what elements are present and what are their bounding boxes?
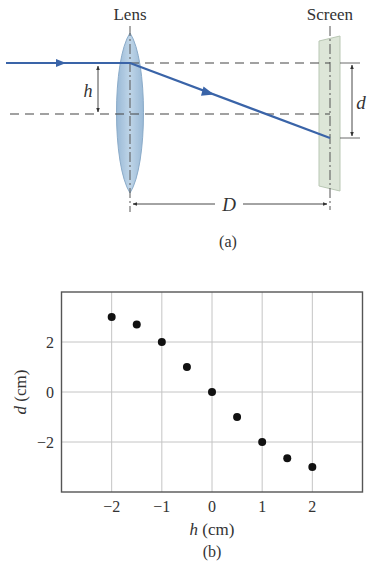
scatter-chart: −2−1012 20−2 h (cm) d (cm) (b) xyxy=(11,292,363,561)
data-point xyxy=(308,463,316,471)
y-tick-label: 2 xyxy=(46,334,54,351)
x-tick-label: 0 xyxy=(208,498,216,515)
y-tick-labels: 20−2 xyxy=(37,334,54,451)
x-tick-label: 1 xyxy=(258,498,266,515)
screen-label: Screen xyxy=(307,5,354,24)
caption-b: (b) xyxy=(203,543,222,561)
data-point xyxy=(158,338,166,346)
x-tick-label: −2 xyxy=(103,498,120,515)
data-point xyxy=(233,413,241,421)
refracted-ray-arrow-icon xyxy=(201,86,214,95)
data-point xyxy=(283,454,291,462)
D-label: D xyxy=(221,194,236,215)
y-tick-label: 0 xyxy=(46,384,54,401)
refracted-ray xyxy=(130,63,330,138)
h-label: h xyxy=(84,81,93,101)
lens-label: Lens xyxy=(113,5,146,24)
x-axis-unit: (cm) xyxy=(198,520,234,539)
data-point xyxy=(258,438,266,446)
y-axis-label: d (cm) xyxy=(11,370,30,415)
lens-diagram: Lens Screen h d D (a) xyxy=(6,5,366,251)
x-axis-label: h (cm) xyxy=(190,520,235,539)
y-tick-label: −2 xyxy=(37,434,54,451)
x-tick-labels: −2−1012 xyxy=(103,498,316,515)
y-axis-unit: (cm) xyxy=(11,370,30,406)
caption-a: (a) xyxy=(219,233,237,251)
data-point xyxy=(183,363,191,371)
data-point xyxy=(108,313,116,321)
d-label: d xyxy=(356,92,366,113)
data-point xyxy=(208,388,216,396)
incoming-ray-arrow-icon xyxy=(56,59,66,67)
x-tick-label: 2 xyxy=(308,498,316,515)
x-tick-label: −1 xyxy=(153,498,170,515)
figure: Lens Screen h d D (a) xyxy=(0,0,374,564)
x-axis-var: h xyxy=(190,520,199,539)
data-point xyxy=(133,321,141,329)
